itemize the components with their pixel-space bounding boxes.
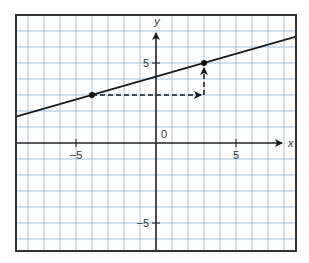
y-tick-label: 5	[143, 57, 149, 69]
x-tick-label: −5	[70, 149, 83, 161]
y-axis-label: y	[153, 15, 161, 27]
y-tick-label: −5	[136, 217, 149, 229]
x-tick-label: 5	[233, 149, 239, 161]
x-axis-label: x	[287, 137, 294, 149]
axes	[16, 33, 282, 251]
data-point	[89, 92, 95, 98]
origin-label: 0	[161, 128, 167, 140]
coordinate-plane: −555−50xy	[0, 0, 309, 263]
data-point	[201, 60, 207, 66]
